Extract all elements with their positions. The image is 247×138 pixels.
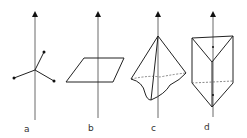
- base-edge: [131, 73, 186, 100]
- atom-dot: [53, 80, 56, 83]
- atom-dot: [13, 77, 16, 80]
- top-face: [192, 36, 233, 62]
- panel-a: a: [13, 11, 56, 134]
- edge: [192, 83, 212, 107]
- panel-b: b: [66, 11, 124, 133]
- panel-d: d: [192, 11, 233, 132]
- panel-label-b: b: [88, 123, 94, 133]
- axis-arrow-icon: [210, 11, 216, 17]
- axis-arrow-icon: [95, 11, 101, 17]
- edge: [158, 36, 186, 73]
- edge: [212, 83, 233, 107]
- panel-c: c: [131, 11, 186, 133]
- axis-arrow-icon: [155, 11, 161, 17]
- axis-dot: [212, 94, 214, 96]
- symmetry-diagram: a b c d: [0, 0, 247, 138]
- axis-arrow-icon: [32, 11, 38, 17]
- atom-dot: [43, 51, 46, 54]
- bond: [14, 70, 35, 78]
- axis-dot: [212, 46, 214, 48]
- panel-label-d: d: [204, 122, 210, 132]
- panel-label-c: c: [151, 123, 156, 133]
- hidden-edge: [131, 73, 186, 79]
- bond: [35, 70, 54, 81]
- plane: [66, 58, 124, 82]
- bond: [35, 52, 44, 70]
- panel-label-a: a: [24, 124, 30, 134]
